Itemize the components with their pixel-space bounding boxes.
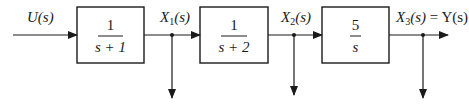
x1-label: X1(s) xyxy=(159,9,190,27)
block-diagram: U(s) 1 s + 1 X1(s) 1 s + 2 X2(s) 5 s X3(… xyxy=(0,0,469,105)
input-label: U(s) xyxy=(27,9,54,26)
g3-denominator: s xyxy=(353,39,359,55)
g2-denominator: s + 2 xyxy=(219,39,250,55)
g2-numerator: 1 xyxy=(230,17,238,33)
x2-label: X2(s) xyxy=(280,9,311,27)
x3-output-label: X3(s) = Y(s) xyxy=(395,9,468,27)
g3-numerator: 5 xyxy=(352,17,360,33)
g1-numerator: 1 xyxy=(107,17,115,33)
g1-denominator: s + 1 xyxy=(95,39,126,55)
